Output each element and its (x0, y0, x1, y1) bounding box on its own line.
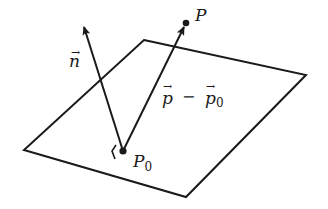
label-minus: − (182, 87, 195, 106)
label-p0-vector: p0 (205, 88, 224, 110)
point-p (183, 20, 190, 27)
label-p: P (194, 5, 207, 25)
right-angle-marker-icon (112, 145, 116, 159)
label-p0: P0 (132, 151, 152, 174)
difference-vector-arrow (123, 27, 184, 151)
plane-diagram: P P0 → n → p − → p0 (0, 0, 328, 209)
point-p0 (119, 147, 126, 154)
label-p: p (162, 88, 173, 108)
label-n: n (69, 51, 80, 71)
